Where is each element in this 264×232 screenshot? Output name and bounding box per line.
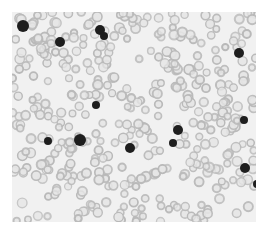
red-blood-cell [57,173,64,180]
red-blood-cell [213,184,221,192]
red-blood-cell [201,12,210,20]
red-blood-cell [119,27,126,34]
red-blood-cell [91,158,99,166]
white-blood-cell [125,143,135,153]
red-blood-cell [77,81,84,88]
red-blood-cell [14,218,20,222]
red-blood-cell [12,165,19,173]
red-blood-cell [103,56,111,64]
red-blood-cell [198,40,205,47]
red-blood-cell [65,123,72,130]
red-blood-cell [72,47,80,55]
red-blood-cell [55,145,62,152]
red-blood-cell [17,198,27,208]
red-blood-cell [118,164,125,171]
red-blood-cell [232,157,242,167]
red-blood-cell [44,166,51,173]
red-blood-cell [212,47,219,54]
red-blood-cell [14,92,22,100]
red-blood-cell [196,133,203,140]
red-blood-cell [158,80,165,87]
red-blood-cell [44,213,51,220]
red-blood-cell [75,102,83,110]
white-blood-cell [240,163,250,173]
red-blood-cell [174,204,181,211]
red-blood-cell [180,173,187,180]
red-blood-cell [52,187,61,196]
red-blood-cell [158,202,165,209]
red-blood-cell [129,198,138,207]
red-blood-cell [202,84,210,92]
red-blood-cell [224,160,231,167]
red-blood-cell [102,198,111,207]
red-blood-cell [233,102,242,111]
red-blood-cell [208,32,215,39]
red-blood-cell [217,119,225,127]
red-blood-cell [249,156,256,165]
red-blood-cell [213,56,221,64]
red-blood-cell [170,16,179,25]
red-blood-cell [97,138,104,145]
red-blood-cell [66,138,74,146]
red-blood-cell [94,175,103,184]
red-blood-cell [128,175,136,183]
red-blood-cell [134,120,143,129]
red-blood-cell [195,62,204,71]
red-blood-cell [231,143,241,153]
white-blood-cell [44,137,52,145]
red-blood-cell [200,98,209,107]
red-blood-cell [68,91,76,99]
red-blood-cell [27,134,36,143]
red-blood-cell [243,30,251,38]
red-blood-cell [107,43,115,51]
red-blood-cell [110,32,118,40]
red-blood-cell [247,139,254,146]
red-blood-cell [155,113,162,120]
red-blood-cell [218,87,227,96]
red-blood-cell [121,190,128,197]
red-blood-cell [12,84,18,92]
red-blood-cell [157,218,165,223]
white-blood-cell [173,125,183,135]
red-blood-cell [136,130,143,137]
white-blood-cell [92,101,100,109]
white-blood-cell [240,116,248,124]
red-blood-cell [182,132,189,139]
red-blood-cell [82,169,91,178]
red-blood-cell [234,118,240,124]
red-blood-cell [213,26,219,32]
red-blood-cell [116,120,123,127]
red-blood-cell [64,12,72,18]
red-blood-cell [244,202,253,211]
red-blood-cell [17,125,24,132]
red-blood-cell [239,77,248,86]
red-blood-cell [213,14,221,22]
blood-smear-image [12,12,256,222]
red-blood-cell [125,104,131,110]
red-blood-cell [204,113,212,121]
red-blood-cell [198,122,205,129]
red-blood-cell [41,100,49,108]
red-blood-cell [59,48,68,57]
red-blood-cell [52,49,59,56]
red-blood-cell [218,69,225,76]
red-blood-cell [83,59,91,67]
red-blood-cell [232,209,241,218]
red-blood-cell [186,158,194,166]
red-blood-cell [123,120,132,129]
red-blood-cell [30,105,37,112]
red-blood-cell [223,150,232,159]
red-blood-cell [133,98,141,106]
red-blood-cell [26,55,33,62]
red-blood-cell [119,133,128,142]
red-blood-cell [192,215,200,222]
red-blood-cell [194,52,202,60]
red-blood-cell [34,12,41,19]
red-blood-cell [12,36,19,43]
red-blood-cell [142,195,149,202]
red-blood-cell [92,12,102,22]
red-blood-cell [230,37,238,45]
red-blood-cell [189,119,197,127]
red-blood-cell [80,41,87,48]
white-blood-cell [17,20,29,32]
